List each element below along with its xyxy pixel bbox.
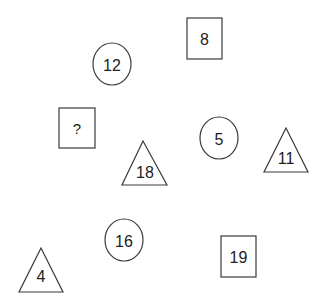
shape-number: 8 bbox=[200, 31, 209, 48]
shape-number: 16 bbox=[115, 233, 133, 250]
triangle-shape-11: 11 bbox=[264, 128, 308, 172]
shape-number: 19 bbox=[230, 249, 248, 266]
puzzle-canvas: 12 8 ? 18 5 11 16 4 19 bbox=[0, 0, 324, 305]
triangle-shape-4: 4 bbox=[19, 248, 63, 292]
square-shape-unknown: ? bbox=[59, 108, 95, 148]
shape-number: 5 bbox=[215, 131, 224, 148]
circle-shape-16: 16 bbox=[105, 219, 143, 261]
triangle-shape-18: 18 bbox=[122, 141, 167, 185]
shape-number: 12 bbox=[103, 57, 121, 74]
square-shape-19: 19 bbox=[221, 236, 256, 277]
question-mark: ? bbox=[73, 120, 81, 137]
shape-number: 4 bbox=[37, 268, 46, 285]
circle-shape-12: 12 bbox=[93, 43, 131, 85]
circle-shape-5: 5 bbox=[200, 117, 238, 159]
square-shape-8: 8 bbox=[187, 18, 222, 59]
shape-number: 11 bbox=[278, 150, 295, 167]
shape-number: 18 bbox=[136, 164, 154, 181]
